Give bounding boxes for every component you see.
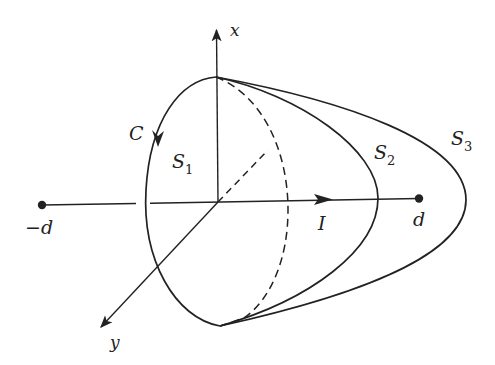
current-arrow-icon: [314, 194, 333, 205]
d-label: d: [413, 208, 425, 230]
hidden-radius-dashed: [218, 150, 268, 202]
y-axis: [101, 202, 218, 327]
y-axis-label: y: [109, 332, 120, 352]
current-axis-left: [42, 204, 136, 206]
x-axis: [217, 30, 219, 202]
surface-s2-label: S2: [374, 141, 395, 168]
point-d: [415, 194, 423, 202]
surface-s1-label: S1: [172, 150, 193, 177]
surfaces-diagram: x y C S1 S2 S3 I −d d: [0, 0, 495, 365]
minus-d-label: −d: [25, 216, 53, 238]
current-label: I: [317, 212, 326, 234]
surface-s3-label: S3: [451, 127, 472, 154]
x-axis-label: x: [230, 20, 240, 40]
loop-c-front: [146, 77, 220, 326]
loop-label: C: [129, 122, 144, 144]
point-minus-d: [38, 201, 46, 209]
